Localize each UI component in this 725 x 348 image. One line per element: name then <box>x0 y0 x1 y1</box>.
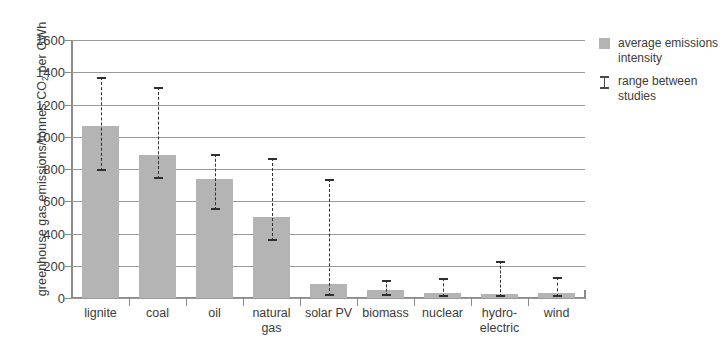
gridline <box>72 40 585 41</box>
error-bar-cap-top <box>97 77 106 79</box>
x-axis-label: naturalgas <box>243 306 300 336</box>
x-axis-label-line: oil <box>186 306 243 321</box>
error-bar-cap-top <box>496 261 505 263</box>
legend-ibeam-icon <box>596 74 612 89</box>
x-tick-mark <box>129 298 130 306</box>
error-bar <box>158 87 159 179</box>
y-tick-mark <box>65 201 72 202</box>
x-tick-mark <box>300 298 301 306</box>
x-tick-mark <box>243 298 244 306</box>
error-bar-cap-top <box>154 87 163 89</box>
error-bar-cap-top <box>211 154 220 156</box>
error-bar <box>329 179 330 297</box>
y-tick-mark <box>65 169 72 170</box>
error-bar <box>101 77 102 171</box>
x-tick-mark <box>528 298 529 306</box>
error-bar-cap-bottom <box>325 294 334 296</box>
legend-item-average-emissions: average emissions intensity <box>596 36 724 65</box>
chart-container: greenhouse gas emissions/tonnes CO2 per … <box>0 0 725 348</box>
y-tick-mark <box>65 234 72 235</box>
error-bar-cap-top <box>268 158 277 160</box>
error-bar-cap-bottom <box>496 295 505 297</box>
x-axis-label-line: gas <box>243 321 300 336</box>
error-bar-cap-bottom <box>553 295 562 297</box>
error-bar-cap-top <box>382 280 391 282</box>
gridline <box>72 105 585 106</box>
legend-label-line1: range between <box>618 74 697 89</box>
error-bar-cap-bottom <box>97 169 106 171</box>
error-bar <box>443 278 444 297</box>
x-axis-label: solar PV <box>300 306 357 321</box>
x-axis-label-line: coal <box>129 306 186 321</box>
error-bar <box>215 154 216 210</box>
legend-label-line2: intensity <box>618 51 718 66</box>
y-tick-label: 200 <box>13 258 65 273</box>
plot-area <box>72 40 585 298</box>
x-axis-label-line: hydro- <box>471 306 528 321</box>
x-axis-label-line: wind <box>528 306 585 321</box>
y-tick-label: 800 <box>13 162 65 177</box>
x-axis-label-line: nuclear <box>414 306 471 321</box>
legend: average emissions intensity range betwee… <box>596 36 724 112</box>
error-bar <box>557 277 558 297</box>
x-axis-label: wind <box>528 306 585 321</box>
y-tick-mark <box>65 298 72 299</box>
legend-label-line1: average emissions <box>618 36 718 51</box>
y-tick-mark <box>65 266 72 267</box>
y-tick-mark <box>65 137 72 138</box>
error-bar-cap-bottom <box>211 208 220 210</box>
x-axis-label-line: natural <box>243 306 300 321</box>
error-bar <box>386 280 387 296</box>
gridline <box>72 72 585 73</box>
gridline <box>72 298 585 299</box>
x-tick-mark <box>471 298 472 306</box>
error-bar-cap-top <box>553 277 562 279</box>
y-tick-label: 1000 <box>13 129 65 144</box>
error-bar-cap-bottom <box>382 294 391 296</box>
y-tick-label: 1400 <box>13 65 65 80</box>
x-tick-mark <box>357 298 358 306</box>
y-tick-mark <box>65 105 72 106</box>
x-tick-mark <box>186 298 187 306</box>
x-axis-label-line: lignite <box>72 306 129 321</box>
error-bar-cap-bottom <box>268 239 277 241</box>
x-axis-label: hydro-electric <box>471 306 528 336</box>
x-axis-label: nuclear <box>414 306 471 321</box>
legend-label: range between studies <box>618 74 697 103</box>
y-tick-label: 1200 <box>13 97 65 112</box>
error-bar <box>272 158 273 241</box>
x-axis-label-line: solar PV <box>300 306 357 321</box>
gridline <box>72 137 585 138</box>
y-tick-label: 1600 <box>13 33 65 48</box>
x-axis-label: lignite <box>72 306 129 321</box>
legend-swatch-icon <box>596 36 612 49</box>
x-axis-label: oil <box>186 306 243 321</box>
x-tick-mark <box>414 298 415 306</box>
x-axis-label-line: biomass <box>357 306 414 321</box>
legend-label: average emissions intensity <box>618 36 718 65</box>
legend-item-range-between-studies: range between studies <box>596 74 724 103</box>
y-tick-label: 400 <box>13 226 65 241</box>
error-bar-cap-bottom <box>154 177 163 179</box>
y-tick-label: 0 <box>13 291 65 306</box>
x-axis-label: biomass <box>357 306 414 321</box>
error-bar-cap-top <box>439 278 448 280</box>
x-axis-label-line: electric <box>471 321 528 336</box>
y-tick-label: 600 <box>13 194 65 209</box>
x-axis-label: coal <box>129 306 186 321</box>
error-bar <box>500 261 501 297</box>
error-bar-cap-bottom <box>439 295 448 297</box>
y-tick-mark <box>65 72 72 73</box>
y-tick-mark <box>65 40 72 41</box>
legend-label-line2: studies <box>618 89 697 104</box>
error-bar-cap-top <box>325 179 334 181</box>
